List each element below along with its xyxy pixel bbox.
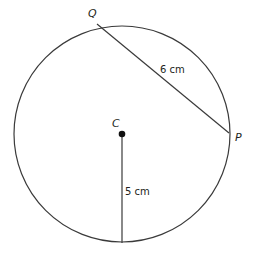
circle-diagram: Q P C 6 cm 5 cm [0,0,258,257]
point-label-c: C [112,117,120,130]
point-label-p: P [235,131,242,144]
center-point [119,131,126,138]
radius-length-label: 5 cm [125,186,150,197]
point-label-q: Q [88,7,97,20]
diagram-svg: Q P C 6 cm 5 cm [0,0,258,257]
chord-length-label: 6 cm [160,64,185,75]
